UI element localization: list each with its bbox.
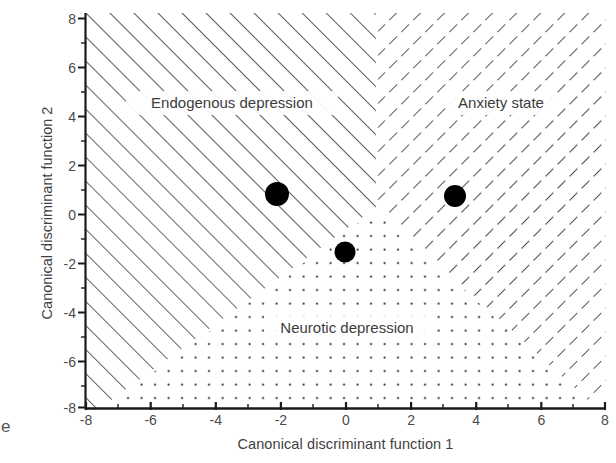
x-tick-label: 6 <box>537 412 545 428</box>
y-tick-label: -8 <box>64 400 76 416</box>
y-tick-label: -4 <box>64 305 76 321</box>
chart-canvas <box>0 0 616 463</box>
data-point-anxiety-centroid <box>444 185 466 207</box>
y-tick-label: 2 <box>68 158 76 174</box>
data-point-neurotic-centroid <box>335 242 356 263</box>
x-tick-label: 0 <box>342 412 350 428</box>
y-tick-label: 8 <box>68 11 76 27</box>
x-tick-label: 4 <box>472 412 480 428</box>
y-tick-label: -6 <box>64 354 76 370</box>
x-tick-label: -2 <box>275 412 287 428</box>
x-tick-label: 8 <box>601 412 609 428</box>
y-tick-label: 4 <box>68 109 76 125</box>
x-tick-label: 2 <box>407 412 415 428</box>
discriminant-territorial-map: e <box>0 0 616 463</box>
region-label-anxiety-state: Anxiety state <box>447 94 555 111</box>
x-tick-label: -4 <box>210 412 222 428</box>
data-point-endogenous-centroid <box>265 182 289 206</box>
page-edge-glyph: e <box>1 418 10 435</box>
region-label-neurotic-depression: Neurotic depression <box>264 319 430 336</box>
x-tick-label: -6 <box>144 412 156 428</box>
y-tick-label: -2 <box>64 256 76 272</box>
y-axis-title: Canonical discriminant function 2 <box>39 13 55 413</box>
region-label-endogenous-depression: Endogenous depression <box>126 94 338 111</box>
y-tick-label: 0 <box>68 207 76 223</box>
y-tick-label: 6 <box>68 60 76 76</box>
x-axis-title: Canonical discriminant function 1 <box>85 436 606 452</box>
x-tick-label: -8 <box>80 412 92 428</box>
